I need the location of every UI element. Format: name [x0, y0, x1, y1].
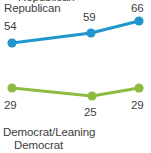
slope-chart: Republican Republican 54 59 66 29 25 29 …: [0, 0, 151, 153]
democrat-point-1[interactable]: [87, 91, 96, 100]
democrat-value-0: 29: [4, 99, 17, 111]
series-label-democrat: Democrat/Leaning Democrat: [3, 126, 95, 151]
democrat-point-2[interactable]: [134, 83, 143, 92]
democrat-line: [12, 88, 139, 96]
republican-point-1[interactable]: [86, 28, 95, 37]
democrat-value-1: 25: [84, 106, 97, 118]
republican-line: [12, 21, 139, 43]
republican-point-2[interactable]: [134, 16, 143, 25]
republican-point-0[interactable]: [7, 38, 16, 47]
democrat-label-line-1: Democrat/Leaning: [3, 126, 95, 138]
republican-value-2: 66: [131, 2, 144, 14]
democrat-value-2: 29: [131, 99, 144, 111]
democrat-label-line-2: Democrat: [3, 139, 95, 152]
republican-value-0: 54: [4, 20, 17, 32]
democrat-point-0[interactable]: [7, 83, 16, 92]
series-label-republican: Republican: [4, 2, 61, 15]
republican-value-1: 59: [83, 11, 96, 23]
